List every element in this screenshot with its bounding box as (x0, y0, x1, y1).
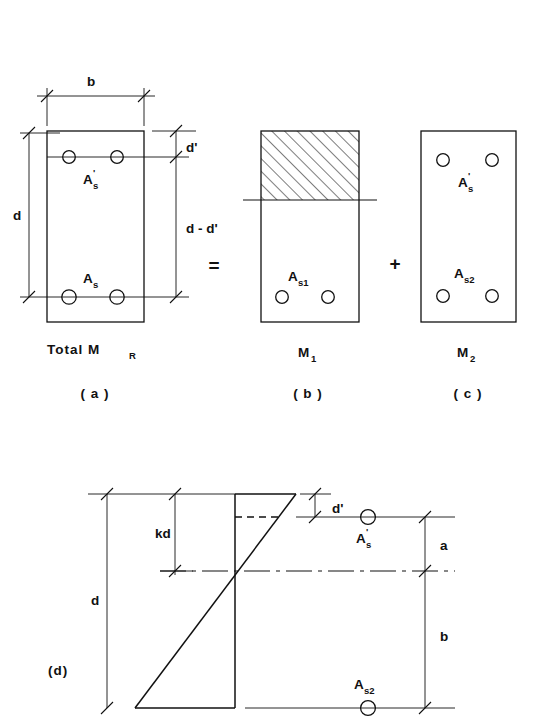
diagram-svg: b d d' d - d' A s ' A s Total M R ( a ) … (0, 0, 541, 719)
svg-text:s: s (93, 279, 98, 290)
label-dim-dprime-d: d' (332, 501, 343, 516)
label-bottom-steel-d: A s2 (354, 677, 375, 696)
svg-text:A: A (83, 172, 93, 187)
label-dim-dprime-a: d' (186, 140, 197, 155)
figure-canvas: b d d' d - d' A s ' A s Total M R ( a ) … (0, 0, 541, 719)
beam-section-outline-c (421, 131, 516, 322)
svg-text:s: s (468, 183, 473, 194)
svg-text:': ' (366, 526, 368, 537)
svg-text:s2: s2 (464, 274, 475, 285)
caption-panel-b-moment: M 1 (298, 345, 317, 364)
compression-block-hatch-b (261, 131, 359, 200)
svg-text:R: R (129, 350, 136, 361)
caption-panel-d-index: (d) (48, 663, 68, 678)
operator-equals: = (208, 255, 219, 276)
label-top-steel-c: A s ' (458, 170, 473, 194)
label-dim-b-d: b (440, 629, 448, 644)
svg-text:s: s (93, 180, 98, 191)
label-bottom-steel-c: A s2 (454, 266, 475, 285)
svg-text:M: M (298, 345, 310, 360)
svg-text:s: s (366, 539, 371, 550)
svg-text:A: A (454, 266, 464, 281)
svg-text:A: A (288, 269, 298, 284)
svg-text:1: 1 (311, 353, 317, 364)
svg-text:A: A (356, 531, 366, 546)
caption-panel-c-index: ( c ) (453, 386, 482, 401)
label-dim-d-a: d (13, 208, 21, 223)
label-dim-kd: kd (155, 526, 171, 541)
label-dim-d-panel-d: d (91, 593, 99, 608)
panel-c (421, 131, 516, 322)
rebar-circle-bottom-right-b (322, 291, 335, 304)
label-top-steel-d: A s ' (356, 526, 371, 550)
svg-text:': ' (468, 170, 470, 181)
caption-panel-a-moment: Total M R (47, 342, 136, 361)
svg-text:A: A (354, 677, 364, 692)
caption-panel-a-index: ( a ) (80, 386, 109, 401)
caption-panel-b-index: ( b ) (293, 386, 323, 401)
label-dim-a-d: a (440, 538, 448, 553)
caption-panel-c-moment: M 2 (457, 345, 475, 364)
label-bottom-steel-a: A s (83, 271, 98, 290)
svg-text:Total M: Total M (47, 342, 100, 357)
svg-text:s1: s1 (298, 277, 309, 288)
svg-text:A: A (458, 175, 468, 190)
svg-text:A: A (83, 271, 93, 286)
beam-section-outline-a (47, 131, 144, 322)
svg-text:s2: s2 (364, 685, 375, 696)
rebar-circle-top-left-c (437, 154, 450, 167)
svg-text:2: 2 (470, 353, 475, 364)
panel-d (88, 488, 455, 715)
rebar-circle-bottom-left-b (276, 291, 289, 304)
svg-text:': ' (93, 167, 95, 178)
operator-plus: + (389, 253, 400, 274)
label-steel-b: A s1 (288, 269, 309, 288)
rebar-circle-bottom-left-c (437, 290, 450, 303)
label-top-steel-a: A s ' (83, 167, 98, 191)
panel-a (20, 88, 196, 322)
svg-text:M: M (457, 345, 469, 360)
panel-b (243, 131, 377, 322)
rebar-circle-top-right-c (486, 154, 499, 167)
label-dim-lever-a: d - d' (186, 221, 218, 236)
rebar-circle-bottom-right-c (486, 290, 499, 303)
label-dim-b-a: b (87, 74, 95, 89)
